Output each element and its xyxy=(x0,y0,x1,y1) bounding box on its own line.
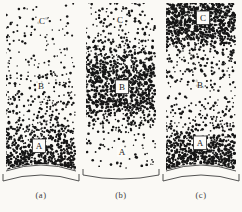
figure-panel-2: CBA(b) xyxy=(82,2,160,200)
zone-label-c: C xyxy=(115,15,125,26)
zone-label-text: B xyxy=(197,80,203,90)
column-base-curve xyxy=(163,174,239,181)
zone-label-text: C xyxy=(39,16,45,26)
zone-label-b: B xyxy=(36,81,46,92)
zone-label-text: C xyxy=(200,13,206,23)
zone-label-b: B xyxy=(195,80,205,91)
zone-label-c: C xyxy=(37,16,47,27)
zone-label-a: A xyxy=(33,139,46,153)
zone-label-text: B xyxy=(119,82,125,92)
column-base-curve xyxy=(83,169,159,179)
figure-panel-3: CBA(c) xyxy=(162,2,240,200)
figure: CBA(a)CBA(b)CBA(c) xyxy=(0,0,242,200)
stipple-column: CBA xyxy=(2,2,80,186)
zone-label-text: A xyxy=(119,147,126,157)
panel-caption: (c) xyxy=(196,190,207,200)
panels-row: CBA(a)CBA(b)CBA(c) xyxy=(2,2,242,200)
zone-label-a: A xyxy=(117,147,127,158)
zone-label-text: A xyxy=(197,138,204,148)
column-base-curve xyxy=(3,174,79,181)
zone-label-text: B xyxy=(38,81,44,91)
figure-panel-1: CBA(a) xyxy=(2,2,80,200)
stipple-column: CBA xyxy=(82,2,160,186)
zone-label-c: C xyxy=(197,11,210,25)
zone-label-b: B xyxy=(116,80,129,94)
panel-caption: (b) xyxy=(115,190,126,200)
zone-label-a: A xyxy=(194,136,207,150)
zone-label-text: A xyxy=(36,141,43,151)
stipple-column: CBA xyxy=(162,2,240,186)
panel-caption: (a) xyxy=(36,190,47,200)
zone-label-text: C xyxy=(117,15,123,25)
